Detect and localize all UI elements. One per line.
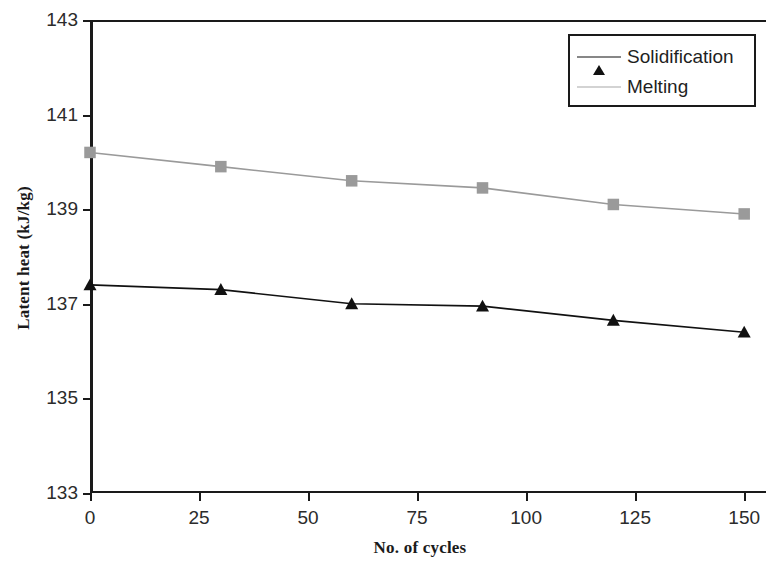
y-tick-label: 135: [46, 387, 78, 409]
x-tick-mark: [526, 492, 528, 501]
series-line-melting: [90, 152, 744, 213]
legend-item-melting: Melting: [570, 72, 754, 102]
x-tick-mark: [199, 492, 201, 501]
legend-line-melting: [577, 87, 621, 88]
y-tick-label: 133: [46, 482, 78, 504]
x-tick-label: 150: [728, 507, 760, 529]
y-tick-label: 137: [46, 293, 78, 315]
triangle-marker-icon: [593, 48, 605, 66]
y-tick-label: 141: [46, 104, 78, 126]
x-tick-mark: [635, 492, 637, 501]
data-point-square: [738, 208, 750, 220]
legend-item-solidification: Solidification: [570, 42, 754, 72]
data-point-square: [215, 161, 227, 173]
legend-label-melting: Melting: [627, 76, 688, 98]
chart-legend: Solidification Melting: [568, 34, 756, 107]
legend-sample-solidification: [577, 48, 621, 66]
data-point-square: [477, 182, 489, 194]
series-line-solidification: [90, 285, 744, 332]
x-tick-label: 100: [510, 507, 542, 529]
x-tick-label: 0: [85, 507, 96, 529]
y-axis-title: Latent heat (kJ/kg): [14, 138, 34, 378]
legend-label-solidification: Solidification: [627, 46, 734, 68]
x-tick-mark: [308, 492, 310, 501]
data-point-square: [84, 147, 96, 159]
legend-sample-melting: [577, 78, 621, 96]
x-tick-label: 50: [297, 507, 318, 529]
chart-figure: Latent heat (kJ/kg) No. of cycles 133135…: [0, 0, 766, 575]
x-axis-title: No. of cycles: [300, 538, 540, 558]
x-tick-label: 75: [407, 507, 428, 529]
x-axis-ticks: 0255075100125150: [90, 493, 766, 533]
y-tick-label: 143: [46, 9, 78, 31]
x-tick-mark: [744, 492, 746, 501]
data-point-square: [346, 175, 358, 187]
x-tick-mark: [90, 492, 92, 501]
x-tick-label: 25: [188, 507, 209, 529]
y-tick-label: 139: [46, 198, 78, 220]
x-tick-mark: [417, 492, 419, 501]
x-tick-label: 125: [619, 507, 651, 529]
data-point-square: [608, 199, 620, 211]
